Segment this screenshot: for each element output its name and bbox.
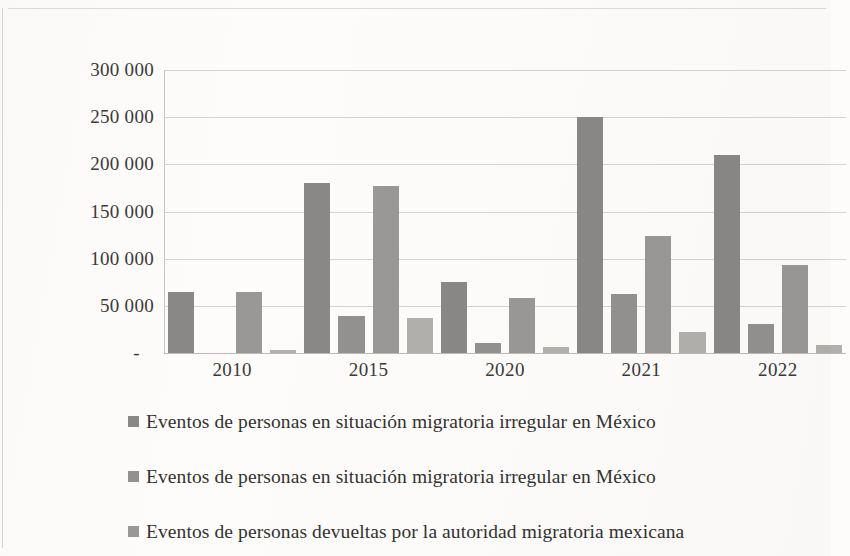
y-axis-tick-label: 200 000: [50, 154, 154, 173]
gridline: [164, 353, 846, 354]
x-axis-tick-label: 2015: [309, 357, 429, 383]
y-axis-tick-label: 50 000: [50, 296, 154, 315]
bar[interactable]: [679, 332, 705, 353]
legend-item[interactable]: Eventos de personas devueltas por la aut…: [128, 504, 848, 556]
bar-group-2010: [164, 70, 300, 353]
legend-item-label: Eventos de personas devueltas por la aut…: [146, 521, 684, 543]
x-axis-tick-label: 2020: [445, 357, 565, 383]
bar[interactable]: [168, 292, 194, 353]
page-edge-top: [8, 8, 826, 9]
bar-group-2015: [300, 70, 436, 353]
bar[interactable]: [338, 316, 364, 353]
bar[interactable]: [304, 183, 330, 353]
bar[interactable]: [714, 155, 740, 353]
bar[interactable]: [509, 298, 535, 353]
chart-legend: Eventos de personas en situación migrato…: [128, 394, 848, 556]
y-axis-tick-label: -: [50, 343, 154, 362]
y-axis-tick-label: 150 000: [50, 202, 154, 221]
legend-swatch-icon: [128, 416, 139, 427]
bar[interactable]: [373, 186, 399, 353]
bar[interactable]: [441, 282, 467, 353]
bar-group-2022: [710, 70, 846, 353]
x-axis-tick-label: 2021: [581, 357, 701, 383]
plot-area: [164, 70, 846, 353]
grouped-bar-chart: 300 000250 000200 000150 000100 00050 00…: [40, 16, 850, 556]
bar[interactable]: [407, 318, 433, 353]
bar[interactable]: [816, 345, 842, 353]
bar[interactable]: [577, 117, 603, 353]
x-axis-tick-label: 2022: [718, 357, 838, 383]
bar[interactable]: [645, 236, 671, 353]
bar-group-2020: [437, 70, 573, 353]
y-axis-tick-label: 300 000: [50, 60, 154, 79]
bar-group-2021: [573, 70, 709, 353]
bar[interactable]: [475, 343, 501, 353]
bar[interactable]: [748, 324, 774, 353]
y-axis-tick-label: 250 000: [50, 107, 154, 126]
legend-item[interactable]: Eventos de personas en situación migrato…: [128, 394, 848, 449]
legend-item-label: Eventos de personas en situación migrato…: [146, 466, 656, 488]
bar[interactable]: [270, 350, 296, 353]
bar[interactable]: [611, 294, 637, 353]
legend-swatch-icon: [128, 471, 139, 482]
bar[interactable]: [236, 292, 262, 353]
x-axis-tick-label: 2010: [172, 357, 292, 383]
page-edge-left: [2, 8, 3, 548]
legend-swatch-icon: [128, 526, 139, 537]
y-axis-tick-label: 100 000: [50, 249, 154, 268]
y-axis-tick-labels: 300 000250 000200 000150 000100 00050 00…: [40, 16, 154, 416]
x-axis-tick-labels: 20102015202020212022: [164, 357, 846, 387]
bar[interactable]: [543, 347, 569, 353]
bar[interactable]: [782, 265, 808, 353]
legend-item-label: Eventos de personas en situación migrato…: [146, 411, 656, 433]
legend-item[interactable]: Eventos de personas en situación migrato…: [128, 449, 848, 504]
